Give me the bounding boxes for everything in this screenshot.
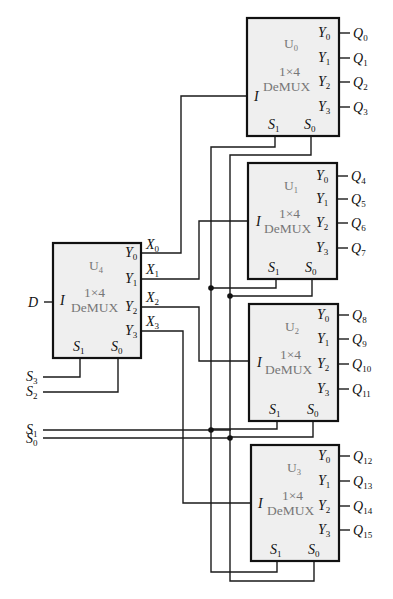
svg-text:X3: X3 [145,314,160,331]
svg-text:DeMUX: DeMUX [267,503,314,518]
wire-s3 [43,358,80,377]
svg-text:Q11: Q11 [352,382,371,399]
block-u2: U2 1×4 DeMUX I Y0 Y1 Y2 Y3 S1 S0 Q8 Q9 Q… [249,304,372,421]
svg-text:Q4: Q4 [351,169,366,186]
output-label: Q2 [353,75,368,92]
svg-text:X0: X0 [145,237,160,254]
svg-text:Q13: Q13 [353,474,373,491]
svg-text:Q6: Q6 [351,216,366,233]
block-type-line1: 1×4 [279,64,300,79]
svg-text:X1: X1 [145,262,159,279]
input-d-label: D [27,295,38,310]
output-label: Q1 [353,51,368,68]
svg-text:Q10: Q10 [352,357,372,374]
svg-text:DeMUX: DeMUX [265,362,312,377]
svg-text:1×4: 1×4 [279,206,300,221]
demux-tree-diagram: U0 1×4 DeMUX I Y0 Y1 Y2 Y3 S1 S0 Q0 Q1 Q… [0,0,393,599]
output-label: Q0 [353,26,368,43]
svg-text:Q7: Q7 [351,241,366,258]
output-label: Q3 [353,100,368,117]
svg-text:1×4: 1×4 [282,488,303,503]
svg-text:Q12: Q12 [353,449,372,466]
input-s2-label: S2 [26,384,38,401]
block-u1: U1 1×4 DeMUX I Y0 Y1 Y2 Y3 S1 S0 Q4 Q5 Q… [248,163,366,279]
block-u0: U0 1×4 DeMUX I Y0 Y1 Y2 Y3 S1 S0 Q0 Q1 Q… [247,18,368,136]
wire-x0 [141,96,247,253]
external-input-labels: D S3 S2 S1 S0 [26,295,38,448]
svg-text:Q9: Q9 [352,332,367,349]
junction-dot [227,435,233,441]
junction-dot [208,427,214,433]
svg-text:1×4: 1×4 [84,285,105,300]
svg-text:1×4: 1×4 [280,347,301,362]
block-u4: U4 1×4 DeMUX I Y0 Y1 Y2 Y3 S1 S0 X0 X1 X… [53,237,160,358]
wire-u1-s1-tap [211,279,276,288]
block-u3: U3 1×4 DeMUX I Y0 Y1 Y2 Y3 S1 S0 Q12 Q13… [251,445,373,561]
wire-u2-s1-tap [211,421,277,429]
svg-text:X2: X2 [145,290,159,307]
junction-dot [227,293,233,299]
svg-text:Q14: Q14 [353,499,373,516]
svg-text:DeMUX: DeMUX [71,300,118,315]
junctions [208,285,233,441]
wire-x3 [141,331,251,503]
block-type-line2: DeMUX [263,79,310,94]
wire-x2 [141,307,249,361]
svg-text:Q5: Q5 [351,192,366,209]
svg-text:Q8: Q8 [352,308,367,325]
junction-dot [208,285,214,291]
svg-text:DeMUX: DeMUX [264,221,311,236]
svg-text:Q15: Q15 [353,523,373,540]
